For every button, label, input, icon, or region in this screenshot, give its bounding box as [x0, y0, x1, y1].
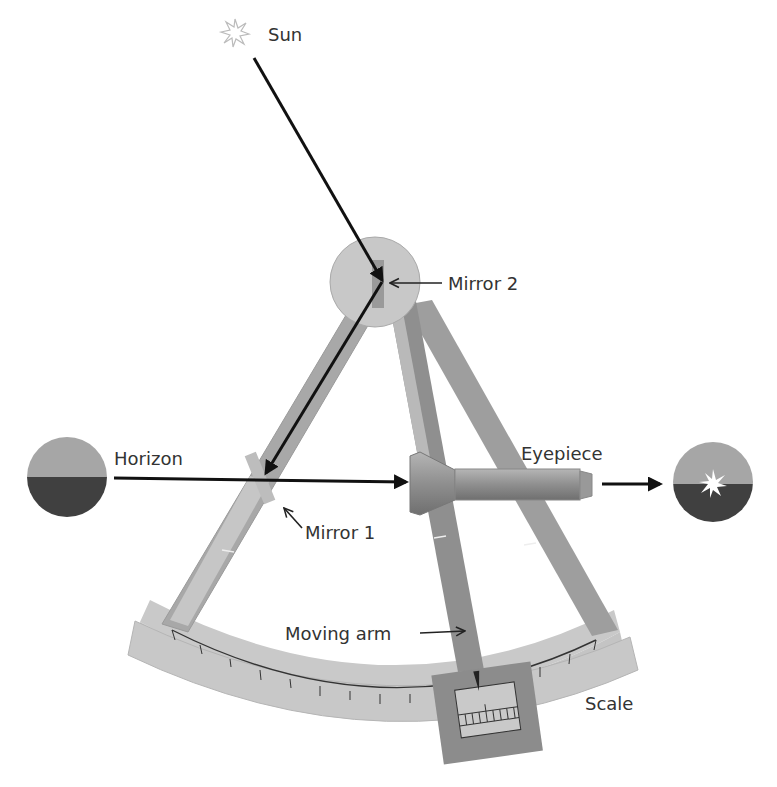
sextant-frame: [162, 300, 618, 636]
label-scale: Scale: [585, 693, 633, 714]
reflected-ray: [266, 282, 382, 473]
label-moving-arm: Moving arm: [285, 623, 391, 644]
label-mirror-1: Mirror 1: [305, 522, 375, 543]
mirror-2-housing: [330, 237, 420, 327]
label-horizon: Horizon: [114, 448, 183, 469]
mirror-1-pointer: [284, 508, 302, 528]
horizon-with-sun-disc-icon: [670, 440, 760, 534]
label-eyepiece: Eyepiece: [521, 443, 603, 464]
horizon-ray: [114, 478, 406, 482]
sun-ray: [254, 58, 382, 280]
scale-arc: [128, 600, 638, 721]
label-sun: Sun: [268, 24, 302, 45]
horizon-disc-icon: [20, 430, 120, 527]
sun-starburst-icon: [221, 19, 249, 47]
vernier-box: [431, 661, 543, 764]
sextant-diagram: Sun Mirror 2 Horizon Eyepiece Mirror 1 M…: [0, 0, 777, 787]
label-mirror-2: Mirror 2: [448, 273, 518, 294]
